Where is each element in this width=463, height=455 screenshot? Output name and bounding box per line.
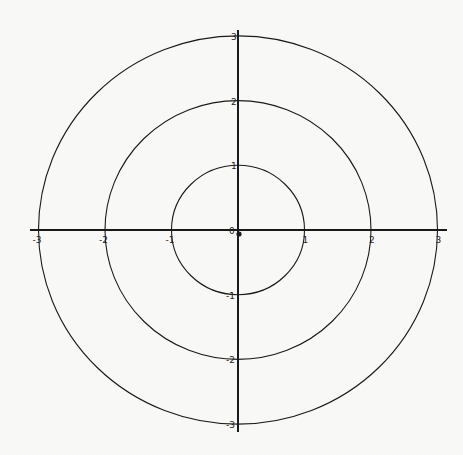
x-tick-label: -3 xyxy=(33,235,42,245)
x-tick-labels: -3-2-1123 xyxy=(33,235,442,245)
y-tick-label: 1 xyxy=(231,161,237,171)
origin-label: 0 xyxy=(229,226,235,236)
y-tick-label: -1 xyxy=(226,291,235,301)
y-tick-label: -2 xyxy=(226,355,235,365)
axes-group: 0 xyxy=(30,30,447,432)
x-tick-label: 2 xyxy=(369,235,375,245)
x-tick-label: 3 xyxy=(436,235,442,245)
x-tick-label: 1 xyxy=(303,235,309,245)
y-tick-label: -3 xyxy=(226,420,235,430)
x-tick-label: -1 xyxy=(166,235,175,245)
y-tick-label: 2 xyxy=(231,97,237,107)
x-tick-label: -2 xyxy=(99,235,108,245)
concentric-circles-figure: 0 -3-2-1123 321-1-2-3 xyxy=(0,0,463,455)
y-tick-label: 3 xyxy=(231,32,237,42)
origin-dot xyxy=(236,231,241,236)
